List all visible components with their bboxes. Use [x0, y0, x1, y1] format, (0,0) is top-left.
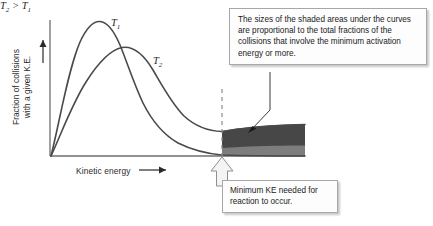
- y-axis-label: Fraction of collisions with a given K.E.: [11, 33, 41, 141]
- callout-shaded-leader-line: [251, 72, 270, 130]
- curve-label-t1-subscript: 1: [117, 23, 121, 31]
- y-axis-label-line1: Fraction of collisions: [11, 33, 22, 141]
- curve-label-t2-subscript: 2: [159, 61, 163, 69]
- y-axis-label-line2: with a given K.E.: [22, 33, 33, 141]
- callout-minimum-ke: Minimum KE needed for reaction to occur.: [222, 180, 338, 213]
- callout-shaded-areas: The sizes of the shaded areas under the …: [229, 8, 427, 65]
- x-axis-label: Kinetic energy: [76, 166, 130, 176]
- figure-container: Fraction of collisions with a given K.E.…: [0, 0, 433, 226]
- curve-label-t1: T1: [111, 17, 120, 31]
- curve-label-t2: T2: [153, 55, 162, 69]
